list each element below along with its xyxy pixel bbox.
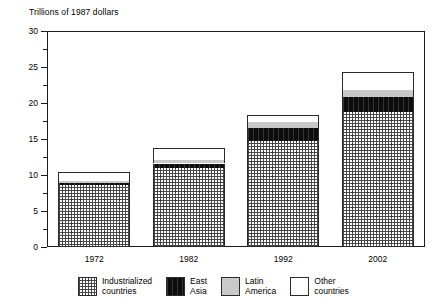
bar-segment: [58, 183, 130, 186]
chart-legend: IndustrializedcountriesEastAsiaLatinAmer…: [78, 277, 363, 303]
legend-item: EastAsia: [166, 277, 207, 297]
y-axis-tick: [41, 139, 47, 140]
bar-segment: [58, 185, 130, 247]
legend-label: Othercountries: [314, 277, 349, 297]
y-axis-tick-label: 25: [12, 62, 38, 72]
legend-swatch: [221, 277, 240, 296]
y-axis-tick: [41, 247, 47, 248]
legend-label: EastAsia: [190, 277, 207, 297]
bar-segment: [247, 115, 319, 122]
legend-swatch: [78, 277, 97, 296]
legend-swatch: [290, 277, 309, 296]
y-axis-tick-label: 20: [12, 98, 38, 108]
legend-item: LatinAmerica: [221, 277, 276, 297]
y-axis-tick: [41, 211, 47, 212]
y-axis-tick-label: 15: [12, 134, 38, 144]
bar-1982: [153, 148, 225, 247]
y-axis-minor-tick: [43, 85, 47, 86]
bar-segment: [342, 90, 414, 97]
y-axis-tick-label: 0: [12, 242, 38, 252]
y-axis-tick-label: 5: [12, 206, 38, 216]
bar-segment: [153, 148, 225, 160]
bar-segment: [342, 72, 414, 90]
bar-segment: [247, 128, 319, 141]
legend-swatch: [166, 277, 185, 296]
legend-label: Industrializedcountries: [102, 277, 152, 297]
bar-segment: [153, 160, 225, 164]
bar-segment: [58, 181, 130, 183]
y-axis-tick: [41, 31, 47, 32]
y-axis-tick: [41, 67, 47, 68]
bar-1992: [247, 115, 319, 247]
legend-item: Industrializedcountries: [78, 277, 152, 297]
bar-segment: [247, 141, 319, 247]
y-axis-minor-tick: [43, 229, 47, 230]
x-axis-tick-label: 1992: [238, 254, 328, 264]
x-axis-tick-label: 2002: [333, 254, 423, 264]
bar-segment: [153, 164, 225, 168]
bar-segment: [342, 112, 414, 247]
y-axis-minor-tick: [43, 157, 47, 158]
bars-layer: [47, 31, 425, 247]
y-axis-minor-tick: [43, 121, 47, 122]
bar-1972: [58, 172, 130, 247]
x-axis-tick-label: 1972: [49, 254, 139, 264]
bar-segment: [58, 172, 130, 181]
chart-figure: Trillions of 1987 dollars 051015202530 1…: [0, 0, 438, 305]
bar-segment: [342, 97, 414, 111]
y-axis-tick: [41, 175, 47, 176]
bar-2002: [342, 72, 414, 247]
bar-segment: [153, 168, 225, 247]
y-axis-tick-label: 30: [12, 26, 38, 36]
chart-title: Trillions of 1987 dollars: [29, 7, 119, 17]
y-axis-tick: [41, 103, 47, 104]
legend-item: Othercountries: [290, 277, 349, 297]
y-axis-minor-tick: [43, 193, 47, 194]
y-axis-minor-tick: [43, 49, 47, 50]
bar-segment: [247, 122, 319, 128]
legend-label: LatinAmerica: [245, 277, 276, 297]
x-axis-tick-label: 1982: [144, 254, 234, 264]
y-axis: 051015202530: [6, 0, 38, 305]
y-axis-tick-label: 10: [12, 170, 38, 180]
